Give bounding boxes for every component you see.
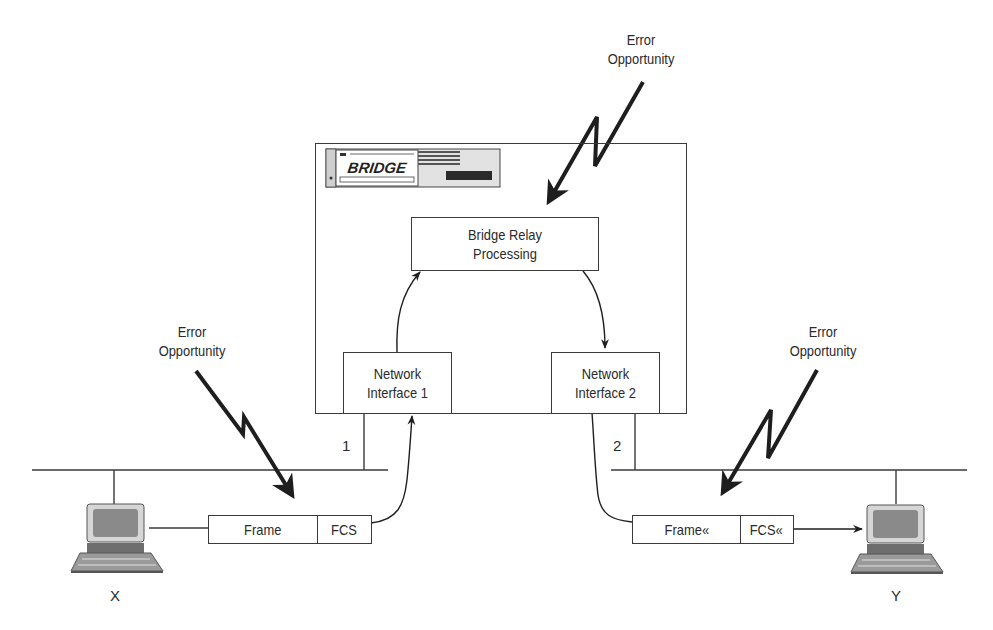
interface-1-line2: Interface 1 <box>367 383 428 402</box>
bridge-relay-processing-box: Bridge Relay Processing <box>411 217 599 271</box>
frame-original: Frame FCS <box>208 515 372 544</box>
interface-2-line2: Interface 2 <box>575 383 636 402</box>
error-opportunity-label-left: Error Opportunity <box>145 322 240 360</box>
error-opportunity-label-top: Error Opportunity <box>594 30 689 68</box>
error-bolt-right-icon <box>723 370 817 492</box>
relay-label-line2: Processing <box>468 244 542 263</box>
interface-2-to-frame-arrow <box>592 413 632 522</box>
port-1-label: 1 <box>342 437 350 454</box>
relay-label-line1: Bridge Relay <box>468 225 542 244</box>
frame-forwarded-data-cell: Frame« <box>633 516 741 543</box>
error-opportunity-label-right: Error Opportunity <box>776 322 871 360</box>
frame-data-cell: Frame <box>209 516 318 543</box>
station-x-label: X <box>110 587 120 604</box>
computer-y-icon <box>851 505 943 574</box>
frame-forwarded: Frame« FCS« <box>632 515 794 544</box>
interface-2-line1: Network <box>575 364 636 383</box>
computer-x-icon <box>71 504 163 573</box>
port-2-label: 2 <box>613 437 621 454</box>
station-y-label: Y <box>891 587 901 604</box>
frame-forwarded-fcs-cell: FCS« <box>740 516 793 543</box>
interface-1-line1: Network <box>367 364 428 383</box>
frame-fcs-cell: FCS <box>317 516 371 543</box>
error-bolt-left-icon <box>196 371 292 495</box>
network-interface-2-box: Network Interface 2 <box>551 352 660 414</box>
network-interface-1-box: Network Interface 1 <box>343 352 452 414</box>
